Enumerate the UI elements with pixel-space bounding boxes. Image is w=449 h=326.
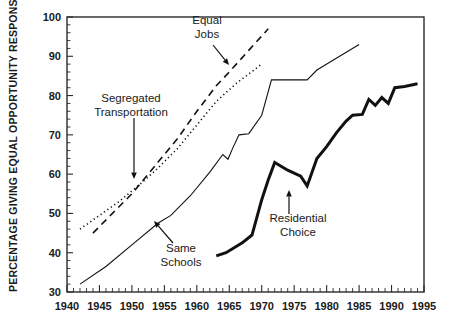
y-tick-label: 60: [49, 168, 61, 180]
annotation-label-equal-jobs: EqualJobs: [192, 14, 221, 40]
y-tick-label: 50: [49, 207, 61, 219]
y-tick-label: 80: [49, 90, 61, 102]
x-tick-label: 1960: [185, 300, 209, 312]
y-axis-title: PERCENTAGE GIVING EQUAL OPPORTUNITY RESP…: [7, 0, 19, 292]
y-axis-title-text: PERCENTAGE GIVING EQUAL OPPORTUNITY RESP…: [7, 0, 19, 292]
y-tick-label: 40: [49, 247, 61, 259]
x-tick-label: 1980: [314, 300, 338, 312]
equal-opportunity-line-chart: PERCENTAGE GIVING EQUAL OPPORTUNITY RESP…: [0, 0, 449, 326]
x-tick-label: 1970: [249, 300, 273, 312]
chart-figure: PERCENTAGE GIVING EQUAL OPPORTUNITY RESP…: [0, 0, 449, 326]
x-tick-label: 1945: [87, 300, 111, 312]
x-tick-label: 1955: [152, 300, 176, 312]
y-tick-label: 100: [43, 11, 61, 23]
x-tick-label: 1965: [217, 300, 241, 312]
y-tick-label: 90: [49, 50, 61, 62]
y-tick-label: 30: [49, 286, 61, 298]
x-tick-label: 1990: [379, 300, 403, 312]
x-tick-label: 1995: [412, 300, 436, 312]
x-tick-label: 1975: [282, 300, 306, 312]
annotation-label-segregated-transportation: SegregatedTransportation: [94, 92, 168, 118]
y-tick-label: 70: [49, 129, 61, 141]
x-tick-label: 1940: [55, 300, 79, 312]
annotation-label-same-schools: SameSchools: [161, 242, 202, 268]
x-tick-label: 1985: [347, 300, 371, 312]
x-tick-label: 1950: [120, 300, 144, 312]
